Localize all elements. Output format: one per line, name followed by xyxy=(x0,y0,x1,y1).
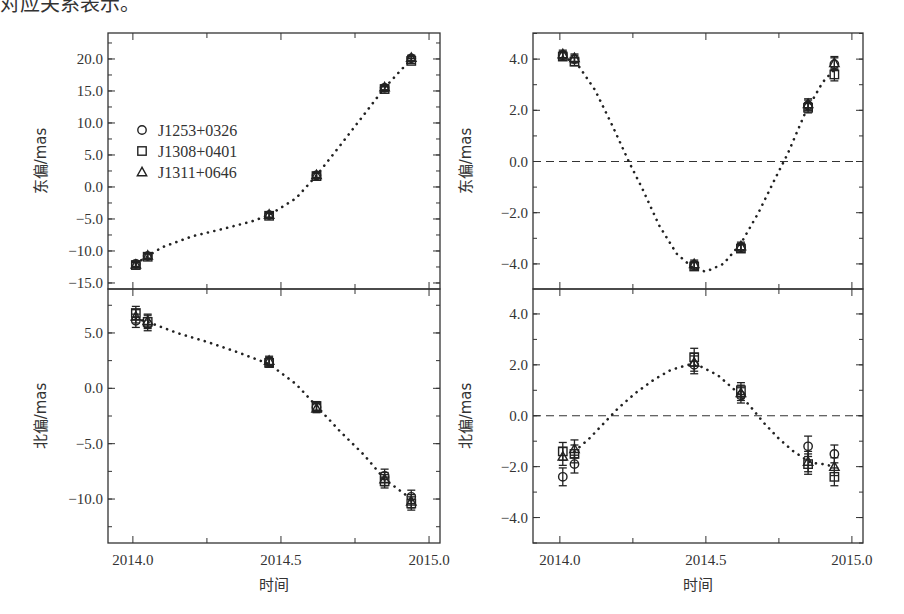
y-tick-label: 20.0 xyxy=(77,51,103,67)
series-j1311+0646 xyxy=(131,53,416,268)
y-axis-title: 北偏/mas xyxy=(32,382,50,449)
astrometry-figure: 20.015.010.05.00.0−5.0−10.0−15.0东偏/masJ1… xyxy=(0,0,904,614)
y-tick-label: 2.0 xyxy=(509,357,528,373)
series-j1253+0326 xyxy=(559,51,839,269)
legend-label: J1311+0646 xyxy=(158,164,237,181)
fit-curve xyxy=(136,319,412,499)
x-tick-label: 2015.0 xyxy=(831,552,872,568)
y-tick-label: 5.0 xyxy=(84,147,103,163)
panel-east-left: 20.015.010.05.00.0−5.0−10.0−15.0东偏/masJ1… xyxy=(32,33,440,291)
y-tick-label: −5.0 xyxy=(76,436,103,452)
y-tick-label: −2.0 xyxy=(501,205,528,221)
series-j1308+0401 xyxy=(132,306,416,510)
x-tick-label: 2014.5 xyxy=(260,552,301,568)
y-tick-label: −15.0 xyxy=(68,275,103,291)
legend-label: J1308+0401 xyxy=(158,143,237,160)
x-axis-title: 时间 xyxy=(259,576,289,594)
legend-label: J1253+0326 xyxy=(158,122,237,139)
y-tick-label: −4.0 xyxy=(501,510,528,526)
series-j1253+0326 xyxy=(132,54,416,268)
y-tick-label: 0.0 xyxy=(509,408,528,424)
panel-north-left: 2014.02014.52015.05.00.0−5.0−10.0北偏/mas时… xyxy=(32,289,450,594)
panel-north-right: 2014.02014.52015.04.02.00.0−2.0−4.0北偏/ma… xyxy=(457,289,873,594)
y-tick-label: −10.0 xyxy=(68,491,103,507)
plot-frame xyxy=(108,289,440,543)
triangle-marker-icon xyxy=(137,167,146,175)
y-tick-label: 0.0 xyxy=(84,380,103,396)
y-tick-label: 10.0 xyxy=(77,115,103,131)
y-axis-title: 东偏/mas xyxy=(457,127,475,194)
panel-east-right: 4.02.00.0−2.0−4.0东偏/mas xyxy=(457,33,863,289)
series-j1308+0401 xyxy=(132,57,416,270)
y-tick-label: −5.0 xyxy=(76,211,103,227)
series-j1308+0401 xyxy=(559,348,839,485)
fit-curve xyxy=(563,57,835,272)
y-tick-label: 15.0 xyxy=(77,83,103,99)
y-tick-label: −4.0 xyxy=(501,256,528,272)
y-tick-label: −2.0 xyxy=(501,459,528,475)
square-marker-icon xyxy=(138,147,146,155)
series-j1253+0326 xyxy=(559,356,839,486)
x-tick-label: 2014.0 xyxy=(112,552,153,568)
series-j1311+0646 xyxy=(558,353,839,475)
x-tick-label: 2014.5 xyxy=(685,552,726,568)
x-tick-label: 2015.0 xyxy=(408,552,449,568)
fit-curve xyxy=(136,59,412,264)
y-axis-title: 北偏/mas xyxy=(457,382,475,449)
legend: J1253+0326J1308+0401J1311+0646 xyxy=(137,122,237,181)
y-tick-label: 4.0 xyxy=(509,306,528,322)
y-axis-title: 东偏/mas xyxy=(32,127,50,194)
x-tick-label: 2014.0 xyxy=(539,552,580,568)
series-j1311+0646 xyxy=(558,49,839,267)
y-tick-label: 0.0 xyxy=(84,179,103,195)
series-j1311+0646 xyxy=(131,310,416,508)
y-tick-label: 0.0 xyxy=(509,154,528,170)
x-axis-title: 时间 xyxy=(683,576,713,594)
y-tick-label: 4.0 xyxy=(509,51,528,67)
y-tick-label: 2.0 xyxy=(509,102,528,118)
y-tick-label: −10.0 xyxy=(68,243,103,259)
series-j1253+0326 xyxy=(132,314,416,503)
y-tick-label: 5.0 xyxy=(84,325,103,341)
circle-marker-icon xyxy=(138,126,146,134)
